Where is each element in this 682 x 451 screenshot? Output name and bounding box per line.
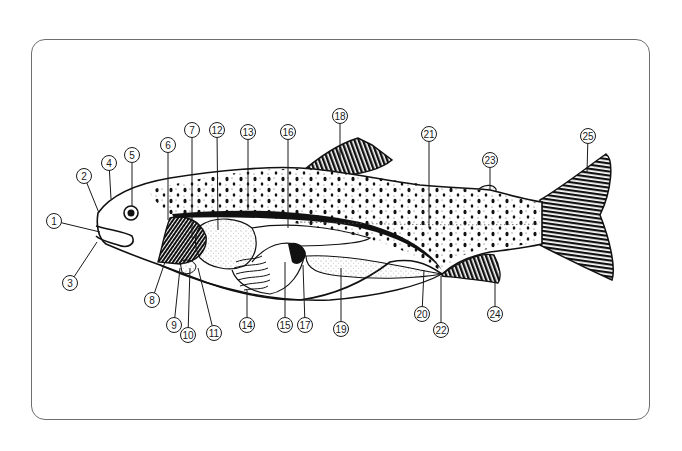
callout-number: 11 (209, 328, 220, 339)
callout-number: 3 (67, 278, 73, 289)
callout-number: 13 (242, 127, 254, 138)
callout-number: 7 (189, 125, 195, 136)
callout-number: 9 (171, 320, 177, 331)
callout-number: 24 (489, 309, 501, 320)
callout-number: 19 (335, 324, 347, 335)
leader-line (61, 223, 100, 232)
callout-9: 9 (167, 268, 182, 333)
callout-23: 23 (483, 153, 498, 191)
liver (196, 219, 257, 269)
trout-anatomy-diagram: 1234567891011121314151617181920212223242… (0, 0, 682, 451)
callout-24: 24 (488, 280, 503, 322)
callout-number: 23 (484, 155, 496, 166)
leader-line (74, 242, 97, 277)
callout-4: 4 (102, 156, 117, 200)
callout-number: 6 (165, 140, 171, 151)
caudal-fin (540, 154, 613, 280)
callout-number: 16 (282, 127, 294, 138)
callout-number: 5 (129, 150, 135, 161)
callout-number: 14 (241, 320, 253, 331)
callout-22: 22 (434, 276, 449, 338)
callout-14: 14 (240, 290, 255, 333)
callout-number: 15 (279, 320, 291, 331)
callout-number: 22 (435, 325, 447, 336)
callout-3: 3 (63, 242, 98, 291)
callout-number: 4 (106, 158, 112, 169)
leader-line (109, 170, 111, 199)
callout-number: 8 (149, 295, 155, 306)
callout-20: 20 (415, 270, 430, 322)
callout-number: 17 (299, 320, 311, 331)
callout-number: 25 (582, 131, 594, 142)
callout-10: 10 (181, 268, 196, 343)
leader-line (175, 268, 180, 318)
callout-number: 1 (51, 216, 57, 227)
callout-number: 20 (416, 309, 428, 320)
callout-number: 18 (334, 111, 346, 122)
heart (180, 260, 196, 274)
callout-1: 1 (47, 214, 101, 233)
leader-line (154, 262, 165, 293)
callout-number: 12 (211, 125, 223, 136)
leader-line (87, 183, 99, 213)
callout-number: 10 (182, 330, 194, 341)
callout-2: 2 (77, 169, 100, 214)
callout-number: 2 (81, 171, 87, 182)
callout-number: 21 (423, 129, 435, 140)
callout-8: 8 (145, 262, 166, 308)
